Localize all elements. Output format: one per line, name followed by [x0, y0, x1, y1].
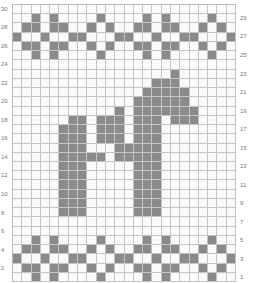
empty-stitch-cell [50, 171, 59, 180]
empty-stitch-cell [125, 14, 134, 23]
empty-stitch-cell [97, 70, 106, 79]
empty-stitch-cell [69, 264, 78, 273]
empty-stitch-cell [190, 162, 199, 171]
empty-stitch-cell [125, 245, 134, 254]
empty-stitch-cell [190, 153, 199, 162]
empty-stitch-cell [134, 217, 143, 226]
empty-stitch-cell [32, 5, 41, 14]
empty-stitch-cell [106, 199, 115, 208]
filled-stitch-cell [78, 180, 87, 189]
filled-stitch-cell [78, 33, 87, 42]
filled-stitch-cell [32, 51, 41, 60]
empty-stitch-cell [50, 227, 59, 236]
empty-stitch-cell [13, 5, 22, 14]
empty-stitch-cell [78, 79, 87, 88]
filled-stitch-cell [217, 42, 226, 51]
filled-stitch-cell [69, 208, 78, 217]
filled-stitch-cell [78, 116, 87, 125]
empty-stitch-cell [199, 97, 208, 106]
empty-stitch-cell [208, 88, 217, 97]
filled-stitch-cell [78, 171, 87, 180]
filled-stitch-cell [97, 153, 106, 162]
filled-stitch-cell [143, 171, 152, 180]
empty-stitch-cell [208, 97, 217, 106]
empty-stitch-cell [125, 208, 134, 217]
empty-stitch-cell [125, 180, 134, 189]
row-label-right: 29 [240, 15, 254, 21]
empty-stitch-cell [217, 199, 226, 208]
filled-stitch-cell [87, 42, 96, 51]
empty-stitch-cell [162, 33, 171, 42]
filled-stitch-cell [97, 236, 106, 245]
filled-stitch-cell [152, 79, 161, 88]
empty-stitch-cell [13, 79, 22, 88]
empty-stitch-cell [22, 180, 31, 189]
filled-stitch-cell [115, 107, 124, 116]
empty-stitch-cell [115, 51, 124, 60]
empty-stitch-cell [199, 33, 208, 42]
filled-stitch-cell [217, 245, 226, 254]
row-label-left: 4 [1, 247, 11, 253]
empty-stitch-cell [217, 5, 226, 14]
filled-stitch-cell [180, 254, 189, 263]
row-label-left: 10 [1, 191, 11, 197]
row-label-left: 30 [1, 6, 11, 12]
empty-stitch-cell [217, 97, 226, 106]
filled-stitch-cell [106, 116, 115, 125]
empty-stitch-cell [217, 88, 226, 97]
empty-stitch-cell [41, 70, 50, 79]
empty-stitch-cell [227, 217, 236, 226]
filled-stitch-cell [190, 254, 199, 263]
filled-stitch-cell [152, 171, 161, 180]
empty-stitch-cell [13, 171, 22, 180]
filled-stitch-cell [97, 125, 106, 134]
empty-stitch-cell [180, 79, 189, 88]
empty-stitch-cell [59, 79, 68, 88]
empty-stitch-cell [106, 208, 115, 217]
empty-stitch-cell [227, 199, 236, 208]
empty-stitch-cell [152, 60, 161, 69]
filled-stitch-cell [143, 97, 152, 106]
empty-stitch-cell [208, 208, 217, 217]
filled-stitch-cell [208, 236, 217, 245]
filled-stitch-cell [97, 14, 106, 23]
empty-stitch-cell [13, 153, 22, 162]
filled-stitch-cell [152, 199, 161, 208]
empty-stitch-cell [87, 144, 96, 153]
empty-stitch-cell [97, 199, 106, 208]
empty-stitch-cell [69, 245, 78, 254]
filled-stitch-cell [143, 264, 152, 273]
empty-stitch-cell [190, 190, 199, 199]
empty-stitch-cell [106, 79, 115, 88]
empty-stitch-cell [227, 125, 236, 134]
filled-stitch-cell [78, 208, 87, 217]
empty-stitch-cell [13, 14, 22, 23]
empty-stitch-cell [13, 264, 22, 273]
empty-stitch-cell [87, 217, 96, 226]
filled-stitch-cell [162, 51, 171, 60]
filled-stitch-cell [152, 88, 161, 97]
empty-stitch-cell [50, 107, 59, 116]
filled-stitch-cell [152, 33, 161, 42]
empty-stitch-cell [22, 116, 31, 125]
empty-stitch-cell [208, 5, 217, 14]
empty-stitch-cell [59, 116, 68, 125]
empty-stitch-cell [115, 14, 124, 23]
empty-stitch-cell [180, 42, 189, 51]
filled-stitch-cell [59, 23, 68, 32]
empty-stitch-cell [13, 125, 22, 134]
empty-stitch-cell [13, 97, 22, 106]
filled-stitch-cell [227, 33, 236, 42]
empty-stitch-cell [208, 60, 217, 69]
empty-stitch-cell [180, 70, 189, 79]
empty-stitch-cell [97, 23, 106, 32]
filled-stitch-cell [78, 134, 87, 143]
empty-stitch-cell [190, 264, 199, 273]
empty-stitch-cell [134, 273, 143, 282]
empty-stitch-cell [106, 171, 115, 180]
filled-stitch-cell [106, 264, 115, 273]
empty-stitch-cell [13, 273, 22, 282]
empty-stitch-cell [180, 236, 189, 245]
empty-stitch-cell [208, 199, 217, 208]
empty-stitch-cell [69, 5, 78, 14]
